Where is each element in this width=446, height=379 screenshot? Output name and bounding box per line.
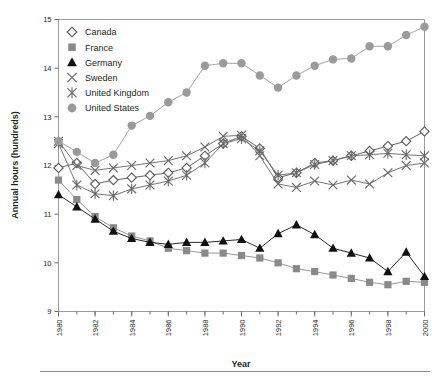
x-tick-label: 1996: [347, 320, 356, 337]
x-tick-label: 1994: [311, 320, 320, 337]
data-point-filled-square: [293, 265, 300, 272]
data-point-filled-circle: [164, 98, 172, 106]
data-point-filled-square: [238, 252, 245, 259]
data-point-filled-square: [183, 247, 190, 254]
data-point-filled-circle: [237, 59, 245, 67]
y-tick-label: 15: [43, 15, 51, 24]
y-tick-label: 13: [43, 113, 51, 122]
data-point-filled-square: [275, 259, 282, 266]
data-point-filled-circle: [274, 83, 282, 91]
line-chart-figure: 9101112131415 19801982198419861988199019…: [0, 0, 446, 379]
x-axis-minor-ticks: [59, 312, 425, 315]
x-tick-label: 1988: [201, 320, 210, 337]
data-point-filled-circle: [256, 71, 264, 79]
x-tick-label: 2000: [421, 320, 430, 337]
data-point-filled-square: [201, 250, 208, 257]
data-point-filled-square: [366, 279, 373, 286]
x-axis-title: Year: [231, 359, 251, 369]
data-point-filled-square: [403, 278, 410, 285]
data-point-filled-circle: [109, 151, 117, 159]
data-point-filled-square: [256, 254, 263, 261]
data-point-filled-circle: [68, 104, 77, 113]
data-point-filled-square: [68, 43, 76, 51]
legend-label: United Kingdom: [85, 88, 149, 98]
x-tick-label: 1986: [164, 320, 173, 337]
y-axis-title: Annual hours (hundreds): [10, 111, 20, 219]
legend-label: France: [85, 43, 113, 53]
data-point-filled-circle: [384, 42, 392, 50]
x-tick-label: 1980: [55, 320, 64, 337]
data-point-filled-square: [329, 271, 336, 278]
data-point-filled-circle: [146, 112, 154, 120]
data-point-filled-circle: [292, 71, 300, 79]
legend-label: Germany: [85, 58, 123, 68]
x-tick-label: 1990: [238, 320, 247, 337]
data-point-filled-circle: [402, 31, 410, 39]
data-point-filled-circle: [182, 88, 190, 96]
x-tick-label: 1998: [384, 320, 393, 337]
legend-label: Sweden: [85, 73, 118, 83]
data-point-filled-square: [55, 177, 62, 184]
data-point-filled-circle: [54, 137, 62, 145]
x-tick-label: 1984: [128, 320, 137, 337]
x-tick-label: 1982: [91, 320, 100, 337]
data-point-filled-circle: [201, 62, 209, 70]
data-point-filled-circle: [329, 55, 337, 63]
data-point-filled-circle: [73, 148, 81, 156]
data-point-filled-circle: [219, 59, 227, 67]
data-point-filled-square: [311, 268, 318, 275]
data-point-filled-circle: [365, 42, 373, 50]
y-tick-label: 14: [43, 64, 51, 73]
y-tick-label: 11: [44, 210, 52, 219]
x-tick-label: 1992: [274, 320, 283, 337]
chart-svg: 9101112131415 19801982198419861988199019…: [0, 0, 446, 379]
data-point-filled-circle: [311, 62, 319, 70]
data-point-filled-square: [220, 250, 227, 257]
data-point-filled-circle: [420, 23, 428, 31]
legend-label: United States: [85, 103, 140, 113]
data-point-filled-circle: [91, 159, 99, 167]
data-point-filled-circle: [128, 121, 136, 129]
legend-label: Canada: [85, 27, 117, 37]
y-tick-label: 10: [43, 259, 51, 268]
y-tick-label: 12: [43, 161, 51, 170]
data-point-filled-square: [384, 281, 391, 288]
data-point-filled-circle: [347, 54, 355, 62]
data-point-filled-square: [348, 275, 355, 282]
y-tick-label: 9: [47, 307, 51, 316]
